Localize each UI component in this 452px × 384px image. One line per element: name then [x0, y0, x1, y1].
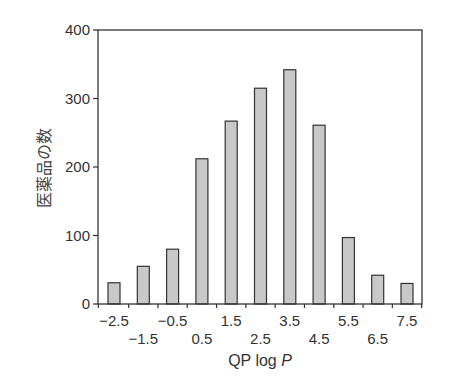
histogram-chart: 0100200300400 −2.5−1.5−0.50.51.52.53.54.… — [0, 0, 452, 384]
bar — [372, 275, 384, 304]
x-tick-label: 4.5 — [309, 330, 330, 347]
bar — [225, 121, 237, 304]
x-tick-label: 1.5 — [221, 312, 242, 329]
bar — [284, 70, 296, 304]
bar — [196, 159, 208, 304]
y-tick-label: 200 — [65, 158, 90, 175]
bar — [137, 266, 149, 304]
x-axis: −2.5−1.5−0.50.51.52.53.54.55.56.57.5 — [98, 304, 421, 347]
x-tick-label: 0.5 — [191, 330, 212, 347]
bar — [342, 238, 354, 304]
y-tick-label: 0 — [82, 295, 90, 312]
x-tick-label: 2.5 — [250, 330, 271, 347]
y-axis-label: 医薬品の数 — [36, 128, 53, 208]
y-tick-label: 100 — [65, 227, 90, 244]
y-axis: 0100200300400 — [65, 21, 98, 312]
x-tick-label: 3.5 — [279, 312, 300, 329]
x-tick-label: 7.5 — [397, 312, 418, 329]
x-axis-label: QP log P — [228, 352, 292, 369]
x-tick-label: −0.5 — [158, 312, 188, 329]
bar — [167, 249, 179, 304]
bar — [255, 88, 267, 304]
x-tick-label: −1.5 — [128, 330, 158, 347]
bar — [108, 283, 120, 304]
bar — [401, 283, 413, 304]
y-tick-label: 300 — [65, 90, 90, 107]
bars — [108, 70, 413, 304]
y-tick-label: 400 — [65, 21, 90, 38]
x-tick-label: 5.5 — [338, 312, 359, 329]
x-tick-label: 6.5 — [367, 330, 388, 347]
x-tick-label: −2.5 — [99, 312, 129, 329]
bar — [313, 125, 325, 304]
